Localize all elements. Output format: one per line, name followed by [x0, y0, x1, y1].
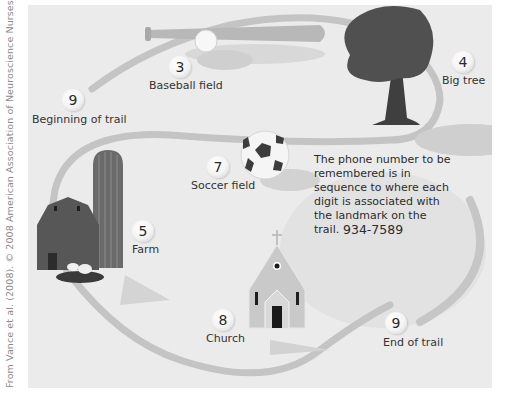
label-beginning-of-trail: Beginning of trail — [32, 113, 127, 126]
label-baseball-field: Baseball field — [149, 79, 223, 92]
label-soccer-field: Soccer field — [191, 179, 255, 192]
digit-marker-beginning: 9 — [62, 89, 84, 111]
label-big-tree: Big tree — [442, 74, 485, 87]
digit-marker-church: 8 — [212, 309, 234, 331]
image-credit: From Vance et al. (2008). © 2008 America… — [4, 48, 15, 388]
digit-marker-baseball: 3 — [169, 56, 191, 78]
label-end-of-trail: End of trail — [383, 336, 443, 349]
phone-number: 934-7589 — [343, 222, 403, 237]
label-farm: Farm — [132, 243, 159, 256]
digit-marker-soccer: 7 — [207, 156, 229, 178]
digit-marker-farm: 5 — [132, 220, 154, 242]
digit-marker-end: 9 — [385, 312, 407, 334]
memory-trail-diagram: 9 Beginning of trail 3 Baseball field 4 … — [28, 5, 492, 388]
label-church: Church — [206, 332, 245, 345]
digit-marker-tree: 4 — [452, 51, 474, 73]
